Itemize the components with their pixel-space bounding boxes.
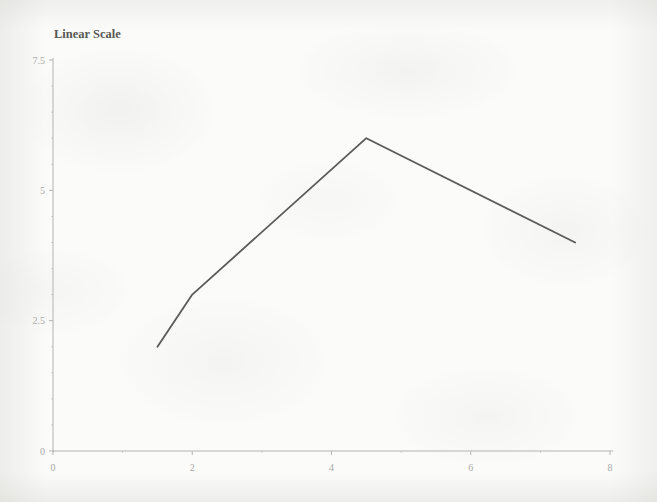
y-axis-tick-label: 5 xyxy=(40,185,45,196)
y-axis-tick-labels: 02.557.5 xyxy=(33,55,46,457)
data-series-line xyxy=(157,138,575,347)
x-axis-major-ticks xyxy=(53,451,610,455)
linear-scale-line-chart: Linear Scale 02.557.5 02468 xyxy=(0,0,657,502)
y-axis-tick-label: 2.5 xyxy=(33,315,46,326)
y-axis-tick-label: 7.5 xyxy=(33,55,46,66)
chart-title: Linear Scale xyxy=(54,27,121,41)
y-axis-group: 02.557.5 xyxy=(33,55,54,457)
x-axis-tick-labels: 02468 xyxy=(51,462,613,473)
x-axis-tick-label: 8 xyxy=(608,462,613,473)
y-axis-major-ticks xyxy=(49,60,53,451)
x-axis-tick-label: 0 xyxy=(51,462,56,473)
chart-title-group: Linear Scale xyxy=(54,27,121,41)
x-axis-tick-label: 6 xyxy=(468,462,473,473)
x-axis-tick-label: 4 xyxy=(329,462,334,473)
y-axis-tick-label: 0 xyxy=(40,446,45,457)
x-axis-tick-label: 2 xyxy=(190,462,195,473)
data-series-group xyxy=(157,138,575,347)
chart-page: Linear Scale 02.557.5 02468 xyxy=(0,0,657,502)
x-axis-group: 02468 xyxy=(51,451,614,473)
